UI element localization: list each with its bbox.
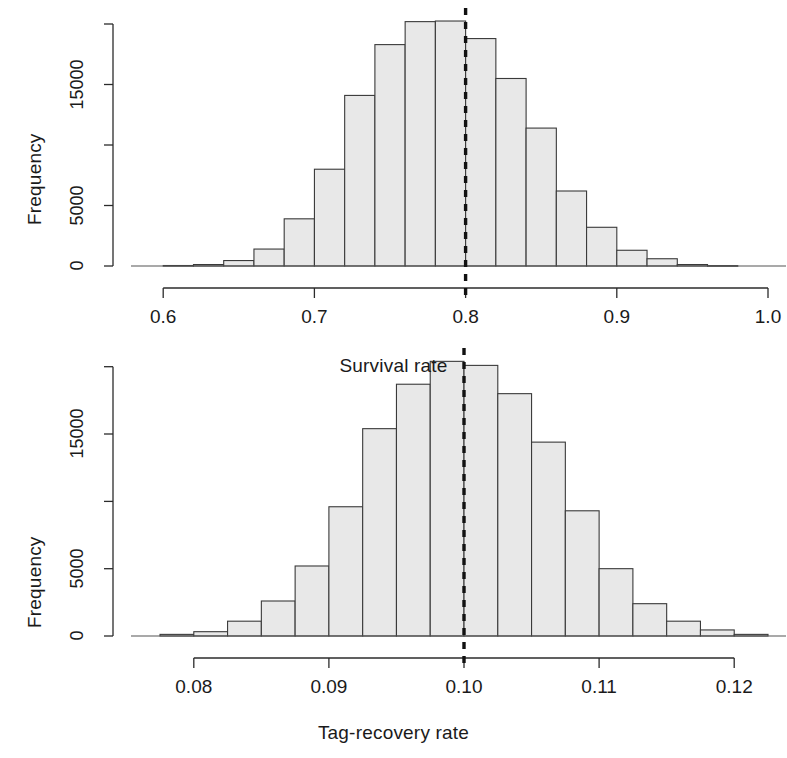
y-axis-title-bottom: Frequency bbox=[24, 536, 46, 628]
histogram-bar bbox=[430, 361, 464, 636]
x-axis-tick-label: 0.6 bbox=[123, 306, 203, 328]
histogram-bar bbox=[194, 632, 228, 636]
histogram-bars bbox=[160, 361, 768, 636]
histogram-bar bbox=[464, 365, 498, 636]
histogram-bar bbox=[556, 191, 586, 266]
histogram-bar bbox=[329, 507, 363, 636]
y-axis-tick-label: 0 bbox=[67, 606, 88, 666]
histogram-bar bbox=[345, 95, 375, 266]
histogram-bar bbox=[405, 22, 435, 266]
histogram-bar bbox=[498, 394, 532, 636]
histogram-bar bbox=[435, 21, 465, 266]
survival-rate-plot bbox=[0, 0, 787, 340]
x-axis-tick-label: 0.08 bbox=[154, 676, 234, 698]
x-axis-tick-label: 1.0 bbox=[728, 306, 787, 328]
x-axis-tick-label: 0.8 bbox=[426, 306, 506, 328]
histogram-bar bbox=[284, 219, 314, 266]
histogram-bar bbox=[261, 601, 295, 636]
histogram-figure: Frequency 05000150000.60.70.80.91.0 Freq… bbox=[0, 0, 787, 758]
histogram-bar bbox=[375, 45, 405, 266]
histogram-bar bbox=[363, 429, 397, 636]
y-axis-title-top: Frequency bbox=[24, 133, 46, 225]
x-axis-title-tag-recovery-rate: Tag-recovery rate bbox=[0, 722, 787, 744]
histogram-bar bbox=[700, 630, 734, 636]
tag-recovery-rate-plot bbox=[0, 340, 787, 758]
x-axis-tick-label: 0.09 bbox=[289, 676, 369, 698]
y-axis-tick-label: 15000 bbox=[67, 54, 88, 114]
panel-survival-rate: Frequency 05000150000.60.70.80.91.0 bbox=[0, 0, 787, 340]
panel-tag-recovery-rate: Frequency 05000150000.080.090.100.110.12 bbox=[0, 340, 787, 758]
histogram-bar bbox=[633, 604, 667, 636]
histogram-bar bbox=[314, 169, 344, 266]
y-axis bbox=[104, 367, 113, 636]
y-axis-tick-label: 0 bbox=[67, 236, 88, 296]
histogram-bar bbox=[599, 569, 633, 636]
histogram-bar bbox=[396, 384, 430, 636]
x-axis-tick-label: 0.9 bbox=[577, 306, 657, 328]
histogram-bar bbox=[532, 442, 566, 636]
histogram-bar bbox=[254, 249, 284, 266]
x-axis-title-survival-rate: Survival rate bbox=[0, 355, 787, 377]
histogram-bar bbox=[526, 128, 556, 266]
x-axis-tick-label: 0.11 bbox=[559, 676, 639, 698]
y-axis-tick-label: 5000 bbox=[67, 175, 88, 235]
histogram-bar bbox=[617, 250, 647, 266]
y-axis bbox=[104, 24, 113, 266]
histogram-bar bbox=[565, 511, 599, 636]
histogram-bar bbox=[496, 78, 526, 266]
histogram-bar bbox=[228, 621, 262, 636]
x-axis-tick-label: 0.10 bbox=[424, 676, 504, 698]
histogram-bar bbox=[466, 39, 496, 266]
histogram-bar bbox=[295, 566, 329, 636]
histogram-bar bbox=[224, 261, 254, 266]
y-axis-tick-label: 5000 bbox=[67, 538, 88, 598]
x-axis-tick-label: 0.12 bbox=[694, 676, 774, 698]
histogram-bar bbox=[647, 259, 677, 266]
y-axis-tick-label: 15000 bbox=[67, 404, 88, 464]
histogram-bar bbox=[667, 621, 701, 636]
x-axis-tick-label: 0.7 bbox=[274, 306, 354, 328]
histogram-bars bbox=[163, 21, 738, 266]
histogram-bar bbox=[587, 227, 617, 266]
